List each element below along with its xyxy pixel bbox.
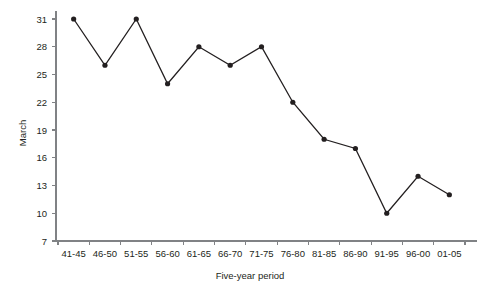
x-tick-label: 61-65 xyxy=(187,248,211,259)
x-tick-label: 41-45 xyxy=(61,248,85,259)
y-tick-label: 19 xyxy=(36,125,47,136)
x-axis-title: Five-year period xyxy=(216,270,285,281)
y-axis-tick-labels: 71013161922252831 xyxy=(36,14,47,247)
x-tick-label: 91-95 xyxy=(375,248,399,259)
data-point-marker xyxy=(134,16,139,21)
y-tick-label: 10 xyxy=(36,208,47,219)
y-axis-title: March xyxy=(17,120,28,146)
x-tick-label: 46-50 xyxy=(93,248,117,259)
y-tick-label: 22 xyxy=(36,97,47,108)
x-tick-label: 01-05 xyxy=(437,248,461,259)
data-point-marker xyxy=(196,44,201,49)
x-tick-label: 66-70 xyxy=(218,248,242,259)
data-point-marker xyxy=(71,16,76,21)
data-point-marker xyxy=(165,81,170,86)
x-axis-tick-marks xyxy=(58,241,465,245)
x-tick-label: 96-00 xyxy=(406,248,430,259)
data-point-marker xyxy=(228,63,233,68)
data-point-marker xyxy=(322,137,327,142)
y-tick-label: 28 xyxy=(36,41,47,52)
y-tick-label: 31 xyxy=(36,14,47,25)
data-point-marker xyxy=(447,192,452,197)
x-tick-label: 51-55 xyxy=(124,248,148,259)
line-chart: 71013161922252831 41-4546-5051-5556-6061… xyxy=(0,0,491,298)
data-point-marker xyxy=(102,63,107,68)
y-tick-label: 16 xyxy=(36,152,47,163)
x-axis-tick-labels: 41-4546-5051-5556-6061-6566-7071-7576-80… xyxy=(61,248,461,259)
y-tick-label: 13 xyxy=(36,180,47,191)
y-axis-tick-marks xyxy=(52,19,56,241)
data-point-marker xyxy=(415,174,420,179)
x-tick-label: 81-85 xyxy=(312,248,336,259)
x-tick-label: 86-90 xyxy=(343,248,367,259)
x-tick-label: 76-80 xyxy=(281,248,305,259)
data-point-marker xyxy=(384,211,389,216)
y-tick-label: 7 xyxy=(42,236,47,247)
y-tick-label: 25 xyxy=(36,69,47,80)
chart-canvas: 71013161922252831 41-4546-5051-5556-6061… xyxy=(0,0,491,298)
data-point-marker xyxy=(353,146,358,151)
data-point-marker xyxy=(259,44,264,49)
data-point-markers xyxy=(71,16,452,215)
x-tick-label: 71-75 xyxy=(249,248,273,259)
x-tick-label: 56-60 xyxy=(155,248,179,259)
data-point-marker xyxy=(290,100,295,105)
